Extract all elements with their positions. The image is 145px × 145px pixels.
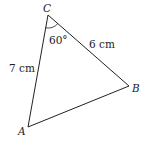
side-cb-label: 6 cm bbox=[89, 38, 115, 50]
triangle-abc bbox=[28, 15, 129, 127]
side-ca-label: 7 cm bbox=[9, 62, 35, 74]
angle-c-arc bbox=[45, 24, 58, 28]
angle-c-label: 60° bbox=[49, 34, 68, 46]
vertex-label-a: A bbox=[17, 125, 26, 137]
triangle-diagram: C B A 60° 6 cm 7 cm bbox=[0, 0, 145, 145]
vertex-label-b: B bbox=[131, 82, 140, 94]
vertex-label-c: C bbox=[43, 2, 51, 14]
